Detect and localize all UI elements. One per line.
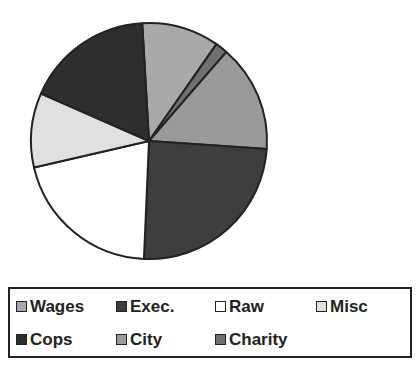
- legend-label-exec: Exec.: [130, 298, 174, 315]
- chart-legend: Wages Exec. Raw Misc Cops City Charity: [8, 287, 412, 358]
- legend-swatch-city: [116, 334, 127, 345]
- legend-item-exec: Exec.: [116, 298, 174, 315]
- legend-swatch-misc: [316, 301, 327, 312]
- legend-item-wages: Wages: [16, 298, 84, 315]
- pie-chart: [0, 0, 300, 270]
- legend-swatch-wages: [16, 301, 27, 312]
- pie-slice-exec: [144, 141, 267, 259]
- legend-item-raw: Raw: [215, 298, 264, 315]
- legend-swatch-charity: [215, 334, 226, 345]
- legend-item-city: City: [116, 331, 162, 348]
- legend-swatch-raw: [215, 301, 226, 312]
- legend-item-charity: Charity: [215, 331, 288, 348]
- legend-label-raw: Raw: [229, 298, 264, 315]
- legend-item-cops: Cops: [16, 331, 73, 348]
- legend-label-cops: Cops: [30, 331, 73, 348]
- legend-swatch-cops: [16, 334, 27, 345]
- legend-item-misc: Misc: [316, 298, 368, 315]
- legend-swatch-exec: [116, 301, 127, 312]
- legend-label-city: City: [130, 331, 162, 348]
- legend-label-misc: Misc: [330, 298, 368, 315]
- legend-label-wages: Wages: [30, 298, 84, 315]
- legend-label-charity: Charity: [229, 331, 288, 348]
